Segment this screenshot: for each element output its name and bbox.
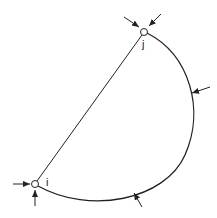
arrow-j-right-icon bbox=[149, 14, 161, 26]
node-j-label: j bbox=[142, 38, 144, 50]
node-i-label: i bbox=[46, 176, 48, 188]
node-i bbox=[32, 181, 39, 188]
arc-edge bbox=[38, 33, 194, 201]
arrow-arc-bottom-icon bbox=[134, 193, 142, 207]
arrow-j-left-icon bbox=[124, 17, 139, 27]
diagram-canvas bbox=[0, 0, 217, 218]
node-j bbox=[141, 29, 148, 36]
chord-edge bbox=[37, 35, 142, 181]
arrow-arc-right-icon bbox=[192, 87, 210, 93]
